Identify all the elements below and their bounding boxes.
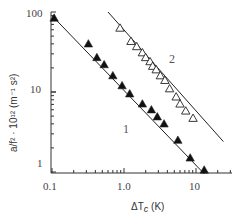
y-tick-1: 1 bbox=[37, 157, 43, 169]
open-triangle-marker bbox=[189, 114, 197, 121]
filled-triangle-marker bbox=[200, 166, 208, 173]
filled-triangle-marker bbox=[138, 100, 146, 107]
filled-triangle-marker bbox=[84, 40, 92, 47]
series-2-label: 2 bbox=[169, 52, 175, 66]
x-axis-title: ΔTc (K) bbox=[131, 201, 164, 214]
filled-triangle-marker bbox=[147, 106, 155, 113]
open-triangle-marker bbox=[172, 93, 180, 100]
filled-triangle-marker bbox=[186, 154, 194, 161]
x-tick-0.1: 0.1 bbox=[43, 180, 57, 192]
series-1-label: 1 bbox=[123, 122, 129, 136]
y-tick-100: 100 bbox=[26, 7, 43, 19]
open-triangle-marker bbox=[176, 100, 184, 107]
x-tick-1.0: 1.0 bbox=[117, 180, 131, 192]
filled-triangle-marker bbox=[160, 120, 168, 127]
x-tick-10: 10 bbox=[189, 180, 201, 192]
filled-triangle-marker bbox=[153, 113, 161, 120]
open-triangle-marker bbox=[116, 24, 124, 31]
plot-area: 100 10 1 0.1 1.0 10 ΔTc (K) a/f² · 10¹² … bbox=[0, 0, 240, 215]
axes bbox=[51, 12, 232, 173]
filled-triangle-marker bbox=[93, 53, 101, 60]
y-axis-title: a/f² · 10¹² (m⁻¹ s²) bbox=[8, 74, 19, 152]
open-triangle-marker bbox=[165, 84, 173, 91]
fit-lines bbox=[52, 12, 223, 174]
open-triangle-marker bbox=[182, 107, 190, 114]
y-ticks bbox=[51, 12, 56, 172]
filled-triangle-marker bbox=[100, 60, 108, 67]
filled-triangle-marker bbox=[174, 136, 182, 143]
y-tick-10: 10 bbox=[30, 83, 42, 95]
